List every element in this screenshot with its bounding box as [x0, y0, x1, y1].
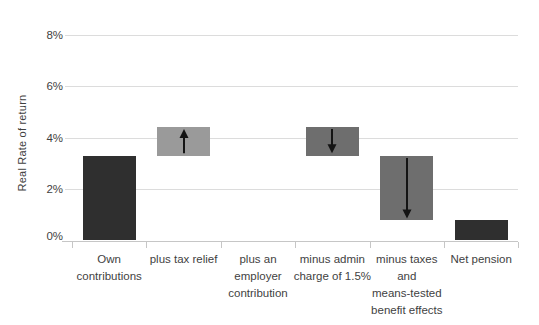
x-axis-line [62, 241, 518, 242]
x-axis-tick [295, 242, 296, 248]
bar-minus-taxes-and-means-tested-benefit-effects [380, 156, 433, 220]
x-axis-tick [518, 242, 519, 248]
y-tick-label: 0% [23, 230, 63, 242]
plot-area: 0%2%4%6%8%Own contributionsplus tax reli… [0, 0, 539, 325]
y-tick-label: 6% [23, 80, 63, 92]
x-axis-label: Net pension [435, 251, 527, 268]
y-tick-label: 8% [23, 29, 63, 41]
down-arrow-icon [401, 156, 413, 220]
gridline-4pct [65, 138, 518, 139]
bar-plus-tax-relief [157, 127, 210, 155]
bar-minus-admin-charge-of-1-5 [306, 127, 359, 155]
x-axis-tick [146, 242, 147, 248]
pension-waterfall-figure: Real Rate of return 0%2%4%6%8%Own contri… [0, 0, 539, 325]
gridline-8pct [65, 35, 518, 36]
down-arrow-icon [326, 127, 338, 155]
bar-own-contributions [83, 156, 136, 241]
gridline-6pct [65, 86, 518, 87]
x-axis-tick [444, 242, 445, 248]
up-arrow-icon [178, 127, 190, 155]
x-axis-tick [221, 242, 222, 248]
x-axis-tick [370, 242, 371, 248]
bar-net-pension [455, 220, 508, 241]
y-tick-label: 2% [23, 183, 63, 195]
x-axis-tick [72, 242, 73, 248]
y-tick-label: 4% [23, 132, 63, 144]
